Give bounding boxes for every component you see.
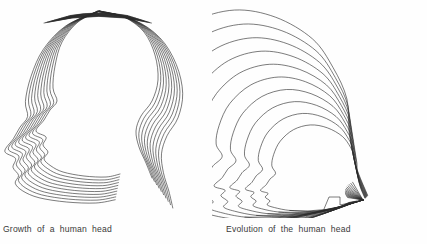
figure-growth-of-a-human-head <box>0 0 215 218</box>
growth-profile-front-8 <box>12 11 117 197</box>
evolution-profile-2 <box>245 113 365 213</box>
evolution-profile-1 <box>261 125 365 212</box>
figure-evolution-of-the-human-head <box>212 0 427 218</box>
evolution-contour-group <box>212 10 368 218</box>
growth-profile-back-5 <box>99 11 169 191</box>
growth-profile-front-3 <box>29 11 119 183</box>
growth-profile-back-10 <box>97 11 183 208</box>
growth-profile-front-1 <box>36 11 120 177</box>
evolution-profile-10 <box>212 10 368 218</box>
evolution-profile-3 <box>230 102 366 215</box>
caption-growth: Growth of a human head <box>3 224 112 234</box>
growth-profile-front-2 <box>33 11 120 180</box>
growth-profile-front-4 <box>26 11 119 186</box>
evolution-profile-7 <box>212 51 367 218</box>
evolution-contour-drawing <box>212 0 427 218</box>
growth-contour-drawing <box>0 0 215 218</box>
caption-evolution: Evolution of the human head <box>226 224 351 234</box>
growth-profile-front-5 <box>22 11 118 188</box>
growth-profile-back-8 <box>98 11 178 201</box>
growth-profile-front-6 <box>19 11 118 191</box>
growth-profile-front-7 <box>15 11 117 194</box>
figure-page: Growth of a human head Evolution of the … <box>0 0 427 244</box>
growth-contour-group <box>5 11 183 208</box>
